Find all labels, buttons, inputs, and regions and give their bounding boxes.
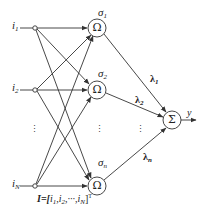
- sigma-label-1: σ1: [98, 7, 107, 20]
- input-node-n: [33, 184, 37, 188]
- hidden-ellipsis: ⋮: [95, 128, 99, 131]
- omega-symbol-2: Ω: [90, 84, 104, 95]
- edge-hn-out: [104, 128, 166, 180]
- sigma-sum-symbol: Σ: [165, 114, 179, 125]
- input-label-1: i1: [12, 20, 19, 33]
- input-label-2: i2: [12, 82, 19, 95]
- omega-symbol-n: Ω: [90, 180, 104, 191]
- omega-symbol-1: Ω: [90, 22, 104, 33]
- weight-label-n: λn: [143, 152, 152, 164]
- input-vector-label: I=[i1,i2,···,iN]T: [37, 193, 92, 206]
- input-ellipsis: ⋮: [30, 128, 34, 131]
- weight-ellipsis: ⋮: [136, 128, 140, 131]
- weight-label-2: λ2: [135, 95, 143, 107]
- output-label: y: [187, 108, 191, 118]
- input-label-n: iN: [12, 178, 20, 191]
- network-diagram: [0, 0, 209, 214]
- weight-label-1: λ1: [150, 74, 158, 86]
- input-node-1: [33, 26, 37, 30]
- sigma-label-2: σ2: [98, 68, 107, 81]
- edge-i1-h2: [37, 29, 89, 84]
- input-node-2: [33, 88, 37, 92]
- edge-i2-hn: [37, 91, 89, 180]
- sigma-label-n: σn: [98, 157, 107, 170]
